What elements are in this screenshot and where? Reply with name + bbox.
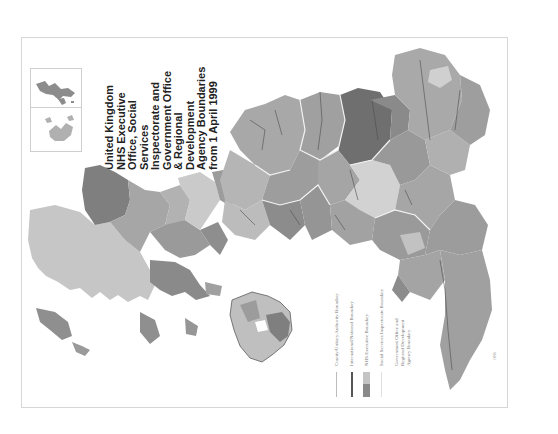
legend-label-go-rda-boundary: Government Office and Regional Developme… — [394, 306, 412, 366]
legend-label-ssi-boundary: Social Services Inspectorate Boundary — [379, 289, 384, 366]
scotland-region — [28, 165, 250, 356]
northern-ireland-region — [230, 292, 292, 362]
legend-label-nhs-boundary: NHS Executive Boundary — [364, 314, 369, 366]
legend-swatch-nhs-boundary — [363, 372, 370, 384]
uk-map — [21, 37, 506, 406]
legend-swatch-county-boundary — [336, 372, 337, 397]
legend-swatch-nhs-boundary-dark — [363, 384, 370, 397]
legend-label-county-boundary: County/Unitary Authority Boundary — [334, 293, 339, 366]
legend-label-national-boundary: International/National Boundary — [349, 301, 354, 366]
legend-swatch-national-boundary — [351, 372, 353, 397]
publisher-mark: ONS — [492, 352, 497, 360]
legend-swatch-ssi-boundary — [381, 372, 382, 397]
